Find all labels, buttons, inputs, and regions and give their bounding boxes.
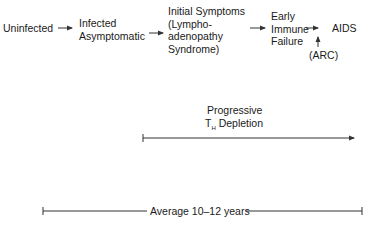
stage-line: Initial Symptoms [168, 5, 245, 18]
stage-line: Failure [271, 35, 309, 48]
stage-initial-symptoms: Initial Symptoms (Lympho- adenopathy Syn… [168, 5, 245, 55]
stage-line: adenopathy [168, 30, 245, 43]
stage-line: Early [271, 10, 309, 23]
stage-infected-asymptomatic: Infected Asymptomatic [79, 17, 145, 42]
stage-early-immune-failure: Early Immune Failure [271, 10, 309, 48]
stage-aids: AIDS [332, 22, 357, 35]
t-subscript: H [211, 125, 215, 131]
stage-line: Asymptomatic [79, 30, 145, 43]
depletion-label-line2: TH Depletion [205, 117, 263, 132]
stage-line: Syndrome) [168, 43, 245, 56]
duration-label: Average 10–12 years [150, 205, 250, 218]
stage-line: (Lympho- [168, 18, 245, 31]
depletion-label-line1: Progressive [207, 104, 262, 117]
arc-label: (ARC) [309, 49, 338, 62]
depletion-text: Depletion [216, 117, 263, 129]
stage-uninfected: Uninfected [3, 22, 53, 35]
stage-line: Immune [271, 23, 309, 36]
stage-line: Infected [79, 17, 145, 30]
